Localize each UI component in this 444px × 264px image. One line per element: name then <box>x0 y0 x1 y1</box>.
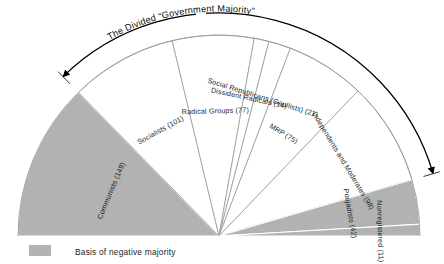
annotation-end-tick <box>58 72 70 84</box>
pie-wedge-label: Nonregistered (11) <box>375 200 386 262</box>
legend-swatch <box>29 245 51 256</box>
pie-wedges <box>18 35 420 236</box>
legend-label: Basis of negative majority <box>75 247 176 257</box>
chart-figure: Communists (149)Socialists (101)Radical … <box>0 0 444 264</box>
annotation-end-tick <box>424 172 440 177</box>
semicircle-pie-chart: Communists (149)Socialists (101)Radical … <box>0 0 444 264</box>
chart-legend: Basis of negative majority <box>29 245 176 257</box>
